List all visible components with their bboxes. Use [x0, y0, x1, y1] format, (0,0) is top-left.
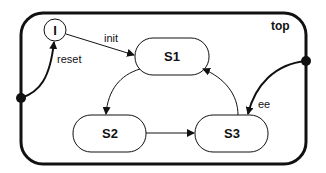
container-label: top — [271, 19, 290, 33]
state-s3[interactable]: S3 — [195, 115, 268, 152]
transition-s1-s2 — [106, 69, 140, 114]
initial-state-label: I — [53, 23, 57, 38]
state-s3-label: S3 — [224, 126, 240, 141]
transition-init — [66, 34, 134, 55]
state-diagram: top I S1 S2 S3 init reset ee — [0, 0, 326, 173]
transition-init-label: init — [104, 32, 118, 44]
initial-state[interactable]: I — [44, 19, 66, 41]
state-s1-label: S1 — [164, 49, 180, 64]
transition-reset-label: reset — [57, 53, 81, 65]
state-s2[interactable]: S2 — [73, 115, 146, 152]
transition-s3-s1 — [203, 69, 238, 115]
state-s1[interactable]: S1 — [135, 38, 209, 75]
state-s2-label: S2 — [102, 126, 118, 141]
transition-reset[interactable] — [21, 42, 54, 98]
transition-ee[interactable] — [248, 61, 306, 114]
transition-ee-label: ee — [258, 98, 270, 110]
